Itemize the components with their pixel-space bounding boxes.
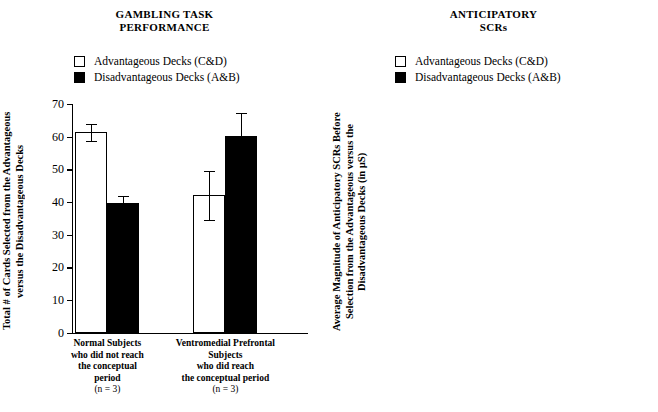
y-tick-0 (67, 333, 72, 334)
gambling-task-performance-chart: GAMBLING TASK PERFORMANCE Advantageous D… (0, 0, 329, 412)
error-cap-group1-series0-upper (204, 171, 215, 172)
anticipatory-scrs-chart: ANTICIPATORY SCRs Advantageous Decks (C&… (329, 0, 658, 412)
error-cap-group1-series1-lower (236, 159, 247, 160)
y-tick-3 (67, 235, 72, 236)
error-bar-group0-series0 (91, 124, 92, 142)
legend-label-advantageous-left: Advantageous Decks (C&D) (94, 55, 227, 68)
error-cap-group1-series1-upper (236, 113, 247, 114)
x-axis-line-left (72, 333, 308, 334)
x-axis-group-label-1-line1: Subjects (166, 350, 284, 362)
x-axis-group-label-1-line4: (n = 3) (166, 384, 284, 396)
chart-title-right: ANTICIPATORY SCRs (329, 8, 658, 34)
legend-label-disadvantageous-right: Disadvantageous Decks (A&B) (415, 71, 561, 84)
bar-advantageous-group0 (75, 132, 107, 332)
x-axis-group-label-1-line3: the conceptual period (166, 373, 284, 385)
x-axis-group-label-0-line4: (n = 3) (48, 384, 166, 396)
error-bar-group1-series1 (241, 113, 242, 159)
error-bar-group1-series0 (209, 171, 210, 220)
y-tick-label-5: 50 (52, 162, 64, 177)
legend-item-disadvantageous-left: Disadvantageous Decks (A&B) (0, 71, 329, 84)
legend-label-advantageous-right: Advantageous Decks (C&D) (415, 55, 548, 68)
x-axis-group-label-0: Normal Subjectswho did not reachthe conc… (48, 338, 166, 396)
legend-item-disadvantageous-right: Disadvantageous Decks (A&B) (329, 71, 658, 84)
chart-title-left-line1: GAMBLING TASK (0, 8, 329, 21)
x-axis-group-label-1-line0: Ventromedial Prefrontal (166, 338, 284, 350)
chart-title-right-line1: ANTICIPATORY (329, 8, 658, 21)
x-axis-group-label-0-line0: Normal Subjects (48, 338, 166, 350)
filled-square-icon (74, 72, 85, 83)
open-square-icon (395, 56, 406, 67)
y-tick-label-1: 10 (52, 293, 64, 308)
y-axis-label-right: Average Magnitude of Anticipatory SCRs B… (331, 100, 377, 343)
y-tick-7 (67, 104, 72, 105)
error-cap-group0-series1-lower (118, 210, 129, 211)
legend-right: Advantageous Decks (C&D) Disadvantageous… (329, 55, 658, 87)
x-axis-group-label-1-line2: who did reach (166, 361, 284, 373)
x-axis-group-label-1: Ventromedial PrefrontalSubjectswho did r… (166, 338, 284, 396)
filled-square-icon (395, 72, 406, 83)
y-tick-label-2: 20 (52, 260, 64, 275)
error-cap-group0-series1-upper (118, 196, 129, 197)
plot-area-left: 010203040506070 (72, 104, 308, 334)
y-tick-label-7: 70 (52, 97, 64, 112)
chart-title-right-line2: SCRs (329, 21, 658, 34)
chart-title-left: GAMBLING TASK PERFORMANCE (0, 8, 329, 34)
error-cap-group0-series0-lower (86, 141, 97, 142)
y-tick-label-6: 60 (52, 129, 64, 144)
legend-item-advantageous-left: Advantageous Decks (C&D) (0, 55, 329, 68)
y-tick-label-3: 30 (52, 227, 64, 242)
y-tick-5 (67, 169, 72, 170)
y-tick-1 (67, 300, 72, 301)
error-bar-group0-series1 (123, 196, 124, 210)
legend-label-disadvantageous-left: Disadvantageous Decks (A&B) (94, 71, 240, 84)
bar-disadvantageous-group0 (107, 203, 139, 333)
y-axis-label-left: Total # of Cards Selected from the Advan… (1, 102, 35, 340)
y-tick-2 (67, 267, 72, 268)
y-tick-4 (67, 202, 72, 203)
bar-disadvantageous-group1 (225, 136, 257, 333)
error-cap-group1-series0-lower (204, 220, 215, 221)
x-axis-group-label-0-line1: who did not reach (48, 350, 166, 362)
y-axis-line-left (72, 104, 73, 334)
legend-left: Advantageous Decks (C&D) Disadvantageous… (0, 55, 329, 87)
y-tick-6 (67, 137, 72, 138)
legend-item-advantageous-right: Advantageous Decks (C&D) (329, 55, 658, 68)
x-axis-group-label-0-line2: the conceptual (48, 361, 166, 373)
chart-title-left-line2: PERFORMANCE (0, 21, 329, 34)
open-square-icon (74, 56, 85, 67)
y-tick-label-4: 40 (52, 195, 64, 210)
x-axis-group-label-0-line3: period (48, 373, 166, 385)
error-cap-group0-series0-upper (86, 124, 97, 125)
